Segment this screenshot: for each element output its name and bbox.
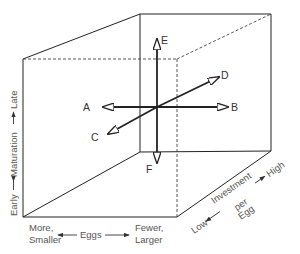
eggs-high-label-line1: Fewer, bbox=[135, 222, 164, 233]
investment-high-label: High bbox=[264, 159, 286, 179]
vector-label-c: C bbox=[91, 131, 99, 143]
eggs-axis: More, Smaller Eggs Fewer, Larger bbox=[29, 222, 164, 245]
investment-high-arrow bbox=[255, 176, 265, 183]
diagram-canvas: A B C D E F Early Maturation Late More, … bbox=[0, 0, 300, 254]
vector-label-d: D bbox=[221, 69, 229, 81]
trait-vectors bbox=[103, 39, 228, 163]
edge-bottom-left-diagonal bbox=[23, 152, 140, 217]
edge-top-left-diagonal bbox=[23, 14, 140, 59]
investment-axis-name-line1: Investment bbox=[209, 170, 254, 206]
cube-diagram: A B C D E F Early Maturation Late More, … bbox=[0, 0, 300, 254]
edge-bottom-right-diagonal bbox=[177, 151, 271, 217]
investment-low-label: Low bbox=[189, 217, 210, 236]
maturation-low-label: Early bbox=[8, 194, 19, 216]
maturation-axis-name: Maturation bbox=[8, 132, 19, 177]
investment-low-arrow bbox=[206, 212, 220, 222]
vector-label-e: E bbox=[161, 34, 168, 46]
maturation-axis: Early Maturation Late bbox=[8, 91, 19, 217]
edge-inner-bottom bbox=[140, 151, 271, 152]
eggs-high-label-line2: Larger bbox=[135, 234, 162, 245]
vector-c-arrow bbox=[108, 107, 157, 134]
vector-label-a: A bbox=[83, 101, 90, 113]
vector-label-b: B bbox=[231, 101, 238, 113]
maturation-high-label: Late bbox=[8, 91, 19, 110]
eggs-axis-name: Eggs bbox=[80, 229, 102, 240]
eggs-low-label-line1: More, bbox=[29, 222, 53, 233]
edge-hidden-top-right-diagonal bbox=[177, 14, 271, 59]
vector-label-f: F bbox=[146, 163, 152, 175]
eggs-low-label-line2: Smaller bbox=[29, 234, 61, 245]
vector-d-arrow bbox=[157, 77, 219, 107]
investment-axis: Low Investment per Egg High bbox=[189, 159, 287, 236]
